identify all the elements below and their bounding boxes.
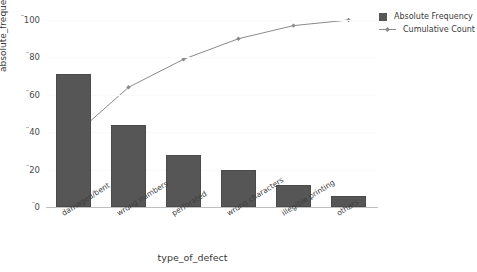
y-axis-tick-label: 80 xyxy=(29,52,46,62)
chart-legend: Absolute Frequency Cumulative Count xyxy=(379,10,475,36)
plot-area: 020406080100 xyxy=(46,20,376,207)
y-axis-tick-mark xyxy=(21,15,24,16)
gridline xyxy=(46,170,376,171)
y-axis-tick-mark xyxy=(26,165,29,166)
y-axis-tick-mark xyxy=(26,52,29,53)
y-axis-tick-label: 100 xyxy=(24,15,46,25)
pareto-chart: Absolute Frequency Cumulative Count abso… xyxy=(0,0,477,272)
y-axis-tick-mark xyxy=(32,202,35,203)
bar xyxy=(56,74,90,207)
y-axis-tick-label: 40 xyxy=(29,127,46,137)
legend-label-cumulative-count: Cumulative Count xyxy=(403,26,475,34)
y-axis-tick-label: 0 xyxy=(35,202,46,212)
line-marker xyxy=(236,37,240,41)
legend-line-marker-icon xyxy=(379,26,396,34)
gridline xyxy=(46,57,376,58)
cumulative-line-series xyxy=(46,20,376,207)
gridline xyxy=(46,95,376,96)
gridline xyxy=(46,132,376,133)
gridline xyxy=(46,20,376,21)
legend-swatch-icon xyxy=(379,13,387,21)
legend-item-cumulative-count: Cumulative Count xyxy=(379,23,475,36)
x-axis-line xyxy=(46,207,378,208)
y-axis-tick-mark xyxy=(26,90,29,91)
x-axis-label: type_of_defect xyxy=(0,252,431,263)
legend-label-absolute-frequency: Absolute Frequency xyxy=(394,13,473,21)
y-axis-tick-label: 60 xyxy=(29,90,46,100)
y-axis-label: absolute_frequency xyxy=(0,0,8,72)
line-marker xyxy=(291,23,295,27)
y-axis-tick-mark xyxy=(26,127,29,128)
legend-item-absolute-frequency: Absolute Frequency xyxy=(379,10,475,23)
y-axis-tick-label: 20 xyxy=(29,165,46,175)
